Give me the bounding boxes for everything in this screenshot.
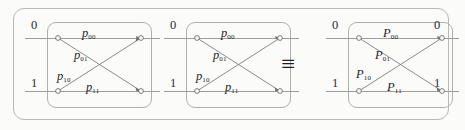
right-digit-bottom: 1 bbox=[434, 77, 440, 90]
block-1-label-bottom: p11 bbox=[86, 78, 100, 95]
block-1-edges bbox=[0, 0, 160, 130]
block-2-label-ld-sub: 10 bbox=[202, 76, 210, 84]
block-1-label-ud-sub: 01 bbox=[80, 55, 88, 63]
block-1-label-top-sub: 00 bbox=[88, 33, 96, 41]
block-1-label-ld-sub: 10 bbox=[63, 76, 71, 84]
block-2-label-lower-diagonal: p10 bbox=[196, 67, 210, 84]
block-2-label-bottom: p11 bbox=[225, 78, 239, 95]
block-3-label-bottom-sub: 11 bbox=[395, 87, 402, 95]
block-1-label-top: p00 bbox=[82, 24, 96, 41]
block-3-edges bbox=[301, 0, 465, 130]
network-block-3: 0 1 P00 P01 P10 P11 bbox=[301, 0, 465, 130]
block-3-label-top: P00 bbox=[383, 24, 398, 41]
block-1-label-bottom-sub: 11 bbox=[92, 87, 99, 95]
block-2-edges bbox=[139, 0, 299, 130]
block-3-label-bottom: P11 bbox=[387, 78, 402, 95]
right-digit-top: 0 bbox=[434, 19, 440, 32]
equivalence-symbol: ≡ bbox=[281, 51, 295, 76]
block-3-label-ud-var: P bbox=[375, 48, 383, 62]
block-3-label-ld-var: P bbox=[356, 67, 364, 81]
network-block-2: 0 1 p00 p01 p10 p11 bbox=[139, 0, 299, 130]
network-block-1: 0 1 p00 p01 p10 p11 bbox=[0, 0, 160, 130]
block-2-label-upper-diagonal: p01 bbox=[213, 46, 227, 63]
block-2-label-top: p00 bbox=[221, 24, 235, 41]
block-3-label-top-var: P bbox=[383, 26, 391, 40]
block-3-label-bottom-var: P bbox=[387, 80, 395, 94]
block-3-label-ud-sub: 01 bbox=[383, 55, 391, 63]
diagram-stage: 0 1 p00 p01 p10 p11 bbox=[0, 0, 465, 130]
block-3-label-top-sub: 00 bbox=[391, 33, 399, 41]
block-3-label-upper-diagonal: P01 bbox=[375, 46, 390, 63]
block-2-label-bottom-sub: 11 bbox=[231, 87, 238, 95]
block-2-label-top-sub: 00 bbox=[227, 33, 235, 41]
figure-root: 0 1 p00 p01 p10 p11 bbox=[0, 0, 465, 130]
block-3-label-lower-diagonal: P10 bbox=[356, 65, 371, 82]
block-1-label-upper-diagonal: p01 bbox=[74, 46, 88, 63]
block-1-label-lower-diagonal: p10 bbox=[57, 67, 71, 84]
block-2-label-ud-sub: 01 bbox=[219, 55, 227, 63]
block-3-label-ld-sub: 10 bbox=[364, 74, 372, 82]
